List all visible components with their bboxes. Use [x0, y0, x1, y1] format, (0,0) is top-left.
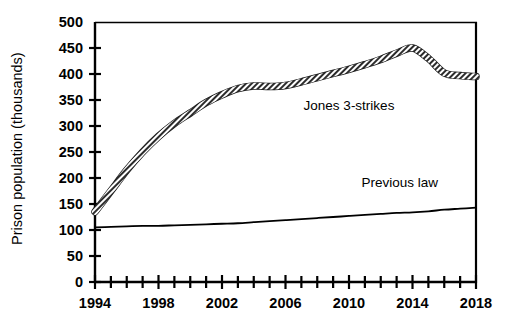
prison-population-line-chart: 050100150200250300350400450500 199419982…	[0, 0, 511, 329]
y-tick-label-350: 350	[59, 92, 83, 108]
y-axis-title: Prison population (thousands)	[9, 52, 25, 245]
x-tick-label-1994: 1994	[79, 295, 111, 311]
x-tick-label-2018: 2018	[460, 295, 492, 311]
x-tick-label-2010: 2010	[333, 295, 365, 311]
x-tick-label-2006: 2006	[269, 295, 301, 311]
y-tick-label-150: 150	[59, 196, 83, 212]
y-tick-label-400: 400	[59, 66, 83, 82]
y-tick-label-0: 0	[75, 274, 83, 290]
y-tick-label-200: 200	[59, 170, 83, 186]
x-tick-label-1998: 1998	[142, 295, 174, 311]
y-tick-label-500: 500	[59, 14, 83, 30]
series-label-previous-law: Previous law	[362, 175, 439, 190]
x-tick-label-2002: 2002	[206, 295, 238, 311]
y-tick-label-250: 250	[59, 144, 83, 160]
chart-container: 050100150200250300350400450500 199419982…	[0, 0, 511, 329]
y-tick-label-50: 50	[67, 248, 83, 264]
y-tick-label-100: 100	[59, 222, 83, 238]
y-tick-label-450: 450	[59, 40, 83, 56]
series-label-jones-3-strikes: Jones 3-strikes	[304, 98, 395, 113]
y-tick-label-300: 300	[59, 118, 83, 134]
x-tick-label-2014: 2014	[396, 295, 428, 311]
